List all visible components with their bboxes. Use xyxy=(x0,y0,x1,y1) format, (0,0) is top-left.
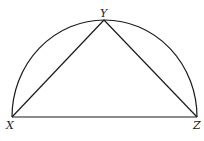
segment-xy xyxy=(12,20,104,117)
segment-yz xyxy=(104,20,197,117)
label-z: Z xyxy=(192,119,201,132)
semicircle-triangle-diagram: Y X Z xyxy=(0,0,204,141)
label-x: X xyxy=(5,119,15,132)
semicircle-arc xyxy=(12,20,197,117)
label-y: Y xyxy=(100,7,109,20)
